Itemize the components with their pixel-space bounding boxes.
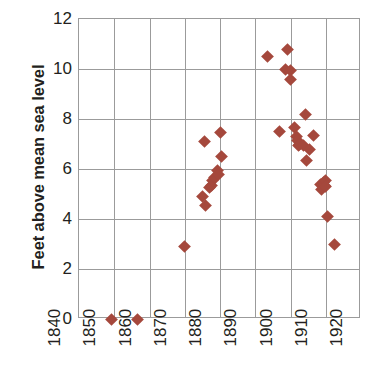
x-axis-tick-label: 1920 — [328, 287, 345, 347]
data-point — [214, 126, 227, 139]
x-axis-tick-label: 1910 — [292, 287, 309, 347]
data-point — [307, 129, 320, 142]
y-axis-tick-label: 2 — [42, 260, 72, 277]
y-axis-tick-label: 8 — [42, 110, 72, 127]
data-point — [274, 125, 287, 138]
gridline-horizontal — [79, 219, 359, 220]
x-axis-tick-label: 1860 — [116, 287, 133, 347]
data-point — [300, 154, 313, 167]
data-point — [321, 210, 334, 223]
x-axis-tick-label: 1850 — [81, 287, 98, 347]
x-axis-tick-label: 1870 — [151, 287, 168, 347]
data-point — [329, 238, 342, 251]
gridline-vertical — [255, 19, 256, 317]
data-point — [178, 240, 191, 253]
gridline-vertical — [185, 19, 186, 317]
y-axis-tick-label: 6 — [42, 160, 72, 177]
data-point — [215, 150, 228, 163]
y-axis-tick-label: 4 — [42, 210, 72, 227]
x-axis-tick-label: 1890 — [222, 287, 239, 347]
y-axis-tick-label: 12 — [42, 10, 72, 27]
x-axis-tick-label: 1840 — [46, 287, 63, 347]
data-point — [198, 135, 211, 148]
gridline-horizontal — [79, 119, 359, 120]
gridline-vertical — [326, 19, 327, 317]
x-axis-tick-label: 1900 — [257, 287, 274, 347]
plot-area — [78, 18, 360, 318]
gridline-horizontal — [79, 69, 359, 70]
x-axis-tick-labels: 184018501860187018801890190019101920 — [0, 318, 381, 372]
y-axis-tick-label: 10 — [42, 60, 72, 77]
chart-figure: Feet above mean sea level 024681012 1840… — [0, 0, 381, 372]
x-axis-tick-label: 1880 — [187, 287, 204, 347]
data-point — [281, 43, 294, 56]
gridline-vertical — [114, 19, 115, 317]
gridline-horizontal — [79, 269, 359, 270]
data-point — [261, 50, 274, 63]
gridline-vertical — [150, 19, 151, 317]
